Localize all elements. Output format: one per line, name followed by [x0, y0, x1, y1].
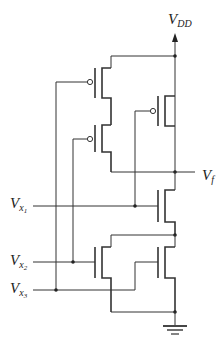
nmos-n1 [33, 190, 175, 235]
vdd-arrow-icon [172, 33, 178, 42]
vdd-label: VDD [168, 12, 192, 29]
output-node [111, 170, 195, 190]
vdd-rail [111, 33, 178, 172]
inversion-bubble-icon [87, 136, 92, 141]
vx1-label: Vx1 [10, 196, 27, 215]
cmos-schematic [0, 0, 221, 349]
vf-label: Vf [202, 168, 214, 185]
circuit-canvas: VDD Vf Vx1 Vx2 Vx3 [0, 0, 221, 349]
ground-icon [163, 326, 187, 334]
ground [111, 310, 187, 334]
middle-node [111, 233, 177, 247]
vx3-label: Vx3 [10, 281, 27, 300]
vx2-label: Vx2 [10, 253, 27, 272]
pmos-p2 [73, 125, 111, 262]
inversion-bubble-icon [87, 79, 92, 84]
nmos-n2 [33, 247, 111, 312]
nmos-n3 [33, 247, 175, 312]
inversion-bubble-icon [150, 108, 155, 113]
